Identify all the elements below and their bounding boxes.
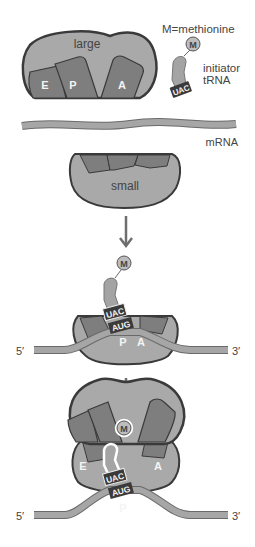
arrow-down-icon — [120, 216, 132, 246]
e-site-label: E — [41, 79, 48, 91]
five-prime-label: 5′ — [16, 510, 24, 522]
trna-label-2: tRNA — [203, 74, 231, 86]
svg-text:M: M — [189, 40, 197, 50]
small-subunit: small — [70, 154, 180, 208]
five-prime-label: 5′ — [16, 345, 24, 357]
small-label: small — [111, 179, 139, 193]
p-site-label: P — [69, 79, 76, 91]
svg-text:P: P — [119, 502, 126, 514]
initiator-trna: M UAC — [170, 37, 200, 98]
translation-initiation-diagram: large E P A M=methionine M UAC initiator… — [0, 0, 255, 547]
svg-text:P: P — [119, 336, 126, 348]
trna-label-1: initiator — [203, 62, 240, 74]
assembled-ribosome: M UAC AUG E A P — [34, 379, 228, 515]
svg-text:M: M — [120, 259, 128, 269]
mrna-strand — [22, 122, 236, 126]
three-prime-label: 3′ — [232, 345, 240, 357]
svg-text:M: M — [120, 424, 128, 434]
a-site-label: A — [118, 79, 126, 91]
svg-text:A: A — [137, 336, 145, 348]
svg-text:A: A — [154, 460, 162, 472]
mrna-label: mRNA — [206, 136, 239, 148]
initiation-complex: M UAC AUG P A — [34, 256, 228, 364]
methionine-legend: M=methionine — [162, 23, 235, 35]
large-label: large — [74, 37, 101, 51]
svg-text:E: E — [79, 460, 86, 472]
large-subunit: large E P A — [23, 31, 157, 98]
three-prime-label: 3′ — [232, 510, 240, 522]
